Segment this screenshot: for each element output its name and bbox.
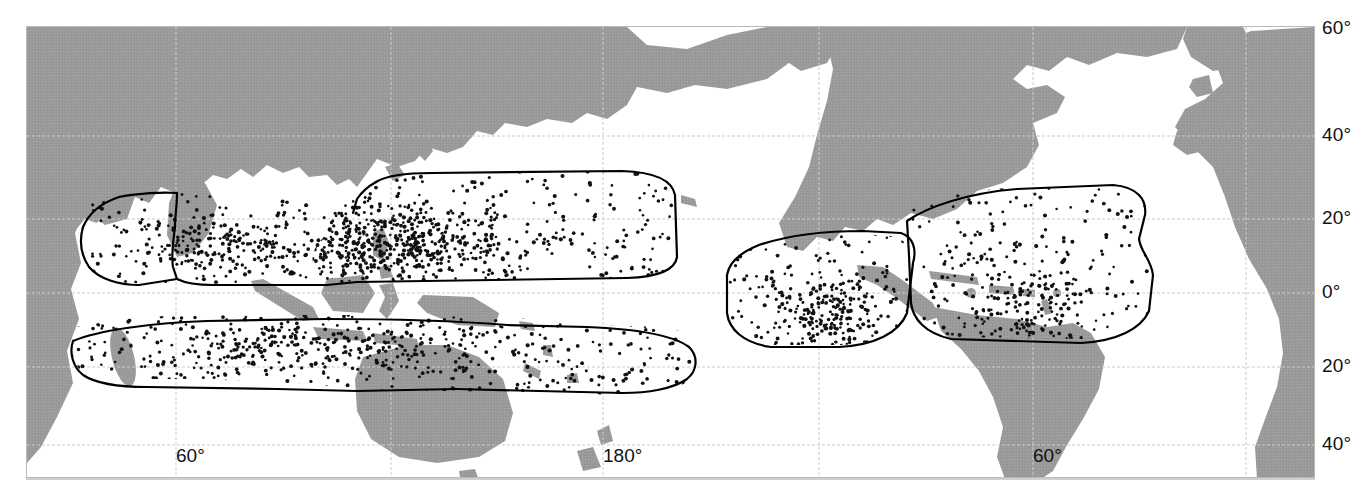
lat-label-20n: 20° [1322,207,1351,229]
lat-label-60n: 60° [1322,17,1351,39]
lat-label-40s: 40° [1322,433,1351,455]
map-canvas [27,27,1315,478]
lon-label-180: 180° [603,445,642,467]
lon-label-60w: 60° [1033,445,1062,467]
lat-label-20s: 20° [1322,355,1351,377]
distribution-map-figure: 60° 180° 60° 60° 40° 20° 0° 20° 40° [0,0,1371,499]
lon-label-60e: 60° [176,445,205,467]
lat-label-40n: 40° [1322,124,1351,146]
frame-shadow [26,478,1315,480]
lat-label-0: 0° [1322,281,1341,303]
map-frame: 60° 180° 60° [26,26,1315,478]
